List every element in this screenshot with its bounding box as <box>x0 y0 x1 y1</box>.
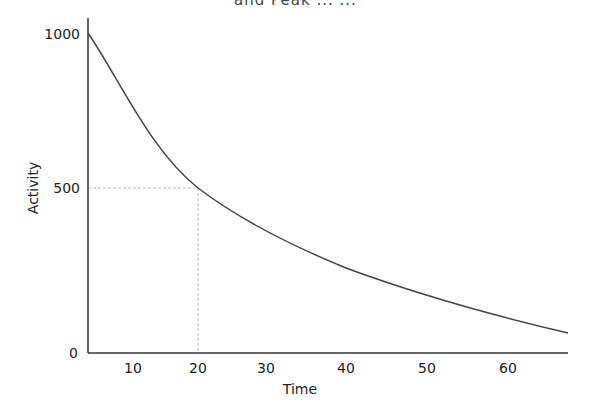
y-tick-0: 0 <box>69 345 78 361</box>
y-tick-500: 500 <box>53 180 80 196</box>
y-tick-1000: 1000 <box>44 26 80 42</box>
x-tick-50: 50 <box>418 360 436 376</box>
x-tick-40: 40 <box>337 360 355 376</box>
x-tick-20: 20 <box>189 360 207 376</box>
x-tick-10: 10 <box>124 360 142 376</box>
chart: 1000 500 0 10 20 30 40 50 60 Time Activi… <box>0 0 591 420</box>
activity-curve <box>88 33 568 333</box>
x-axis-label: Time <box>282 381 317 397</box>
x-tick-30: 30 <box>257 360 275 376</box>
x-tick-60: 60 <box>499 360 517 376</box>
y-axis-label: Activity <box>25 162 41 214</box>
